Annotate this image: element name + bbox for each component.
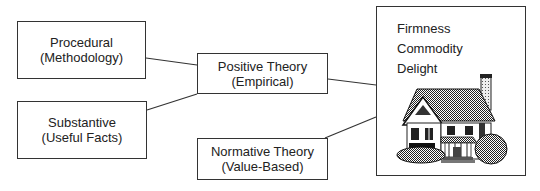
positive-theory-title: Positive Theory: [218, 59, 307, 74]
house-icon: [395, 69, 511, 165]
substantive-subtitle: (Useful Facts): [42, 130, 123, 145]
positive-theory-subtitle: (Empirical): [231, 74, 293, 89]
connector-procedural-positive: [146, 58, 197, 65]
connector-normative-outcome: [325, 117, 376, 138]
quality-commodity: Commodity: [397, 39, 463, 59]
substantive-title: Substantive: [48, 115, 116, 130]
procedural-subtitle: (Methodology): [40, 50, 123, 65]
positive-theory-box: Positive Theory (Empirical): [197, 53, 328, 94]
procedural-box: Procedural (Methodology): [17, 21, 146, 79]
normative-theory-title: Normative Theory: [211, 144, 314, 159]
quality-firmness: Firmness: [397, 19, 463, 39]
connector-substantive-positive: [147, 94, 197, 110]
outcome-box: Firmness Commodity Delight: [376, 6, 526, 176]
normative-theory-box: Normative Theory (Value-Based): [197, 138, 328, 180]
normative-theory-subtitle: (Value-Based): [221, 159, 303, 174]
connector-positive-outcome: [328, 79, 376, 85]
substantive-box: Substantive (Useful Facts): [17, 101, 147, 159]
procedural-title: Procedural: [50, 35, 113, 50]
